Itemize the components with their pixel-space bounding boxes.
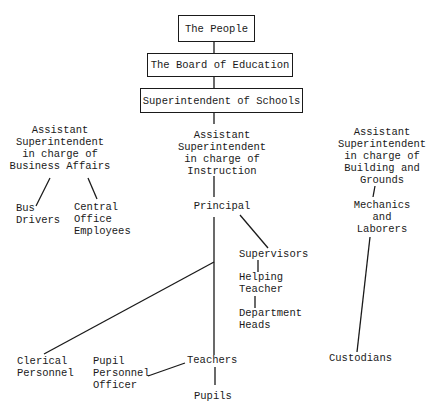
custodians: Custodians — [329, 352, 392, 364]
text-line: Superintendent — [338, 138, 426, 150]
department-heads: Department Heads — [239, 307, 302, 331]
text-line: Bus — [16, 202, 60, 214]
text-line: Mechanics — [354, 199, 411, 211]
mechanics-and-laborers: Mechanics and Laborers — [354, 199, 411, 235]
text-line: Personnel — [17, 367, 74, 379]
text-line: Clerical — [17, 355, 74, 367]
text-line: Helping — [239, 271, 283, 283]
asst-supt-business: Assistant Superintendent in charge of Bu… — [10, 124, 111, 172]
text-line: Superintendent — [178, 141, 266, 153]
board-of-education-label: The Board of Education — [151, 59, 290, 71]
text-line: Office — [74, 213, 131, 225]
text-line: Custodians — [329, 352, 392, 364]
text-line: Assistant — [10, 124, 111, 136]
pupil-personnel-officer: Pupil Personnel Officer — [93, 355, 150, 391]
text-line: Assistant — [178, 129, 266, 141]
asst-supt-buildings: Assistant Superintendent in charge of Bu… — [338, 126, 426, 186]
text-line: Employees — [74, 225, 131, 237]
text-line: Teacher — [239, 283, 283, 295]
text-line: Central — [74, 201, 131, 213]
text-line: Supervisors — [239, 248, 308, 260]
text-line: Personnel — [93, 367, 150, 379]
the-people-box: The People — [178, 15, 255, 42]
text-line: Officer — [93, 379, 150, 391]
central-office-employees: Central Office Employees — [74, 201, 131, 237]
text-line: Heads — [239, 319, 302, 331]
principal: Principal — [194, 200, 251, 212]
superintendent-label: Superintendent of Schools — [143, 95, 301, 107]
helping-teacher: Helping Teacher — [239, 271, 283, 295]
pupils: Pupils — [194, 390, 232, 402]
text-line: in charge of — [178, 153, 266, 165]
text-line: Department — [239, 307, 302, 319]
text-line: Drivers — [16, 214, 60, 226]
text-line: Pupils — [194, 390, 232, 402]
text-line: Grounds — [338, 174, 426, 186]
text-line: Instruction — [178, 165, 266, 177]
text-line: Assistant — [338, 126, 426, 138]
asst-supt-instruction: Assistant Superintendent in charge of In… — [178, 129, 266, 177]
text-line: in charge of — [10, 148, 111, 160]
text-line: Business Affairs — [10, 160, 111, 172]
text-line: Principal — [194, 200, 251, 212]
text-line: Teachers — [187, 354, 237, 366]
text-line: in charge of — [338, 150, 426, 162]
text-line: Superintendent — [10, 136, 111, 148]
the-people-label: The People — [185, 23, 248, 35]
text-line: Building and — [338, 162, 426, 174]
teachers: Teachers — [187, 354, 237, 366]
bus-drivers: Bus Drivers — [16, 202, 60, 226]
text-line: Laborers — [354, 223, 411, 235]
text-line: Pupil — [93, 355, 150, 367]
board-of-education-box: The Board of Education — [147, 53, 293, 77]
superintendent-box: Superintendent of Schools — [140, 88, 303, 113]
clerical-personnel: Clerical Personnel — [17, 355, 74, 379]
text-line: and — [354, 211, 411, 223]
supervisors: Supervisors — [239, 248, 308, 260]
